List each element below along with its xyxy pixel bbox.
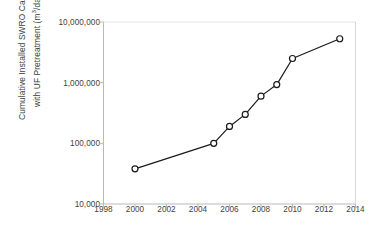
data-point-marker — [258, 93, 264, 99]
data-point-marker — [227, 123, 233, 129]
data-point-marker — [242, 111, 248, 117]
data-point-marker — [274, 82, 280, 88]
series-line — [135, 39, 340, 169]
plot-area — [0, 0, 376, 242]
data-point-marker — [132, 166, 138, 172]
data-point-marker — [211, 140, 217, 146]
chart-figure: Cumulative Installed SWRO Capacity with … — [0, 0, 376, 242]
data-point-marker — [337, 36, 343, 42]
data-point-marker — [290, 56, 296, 62]
